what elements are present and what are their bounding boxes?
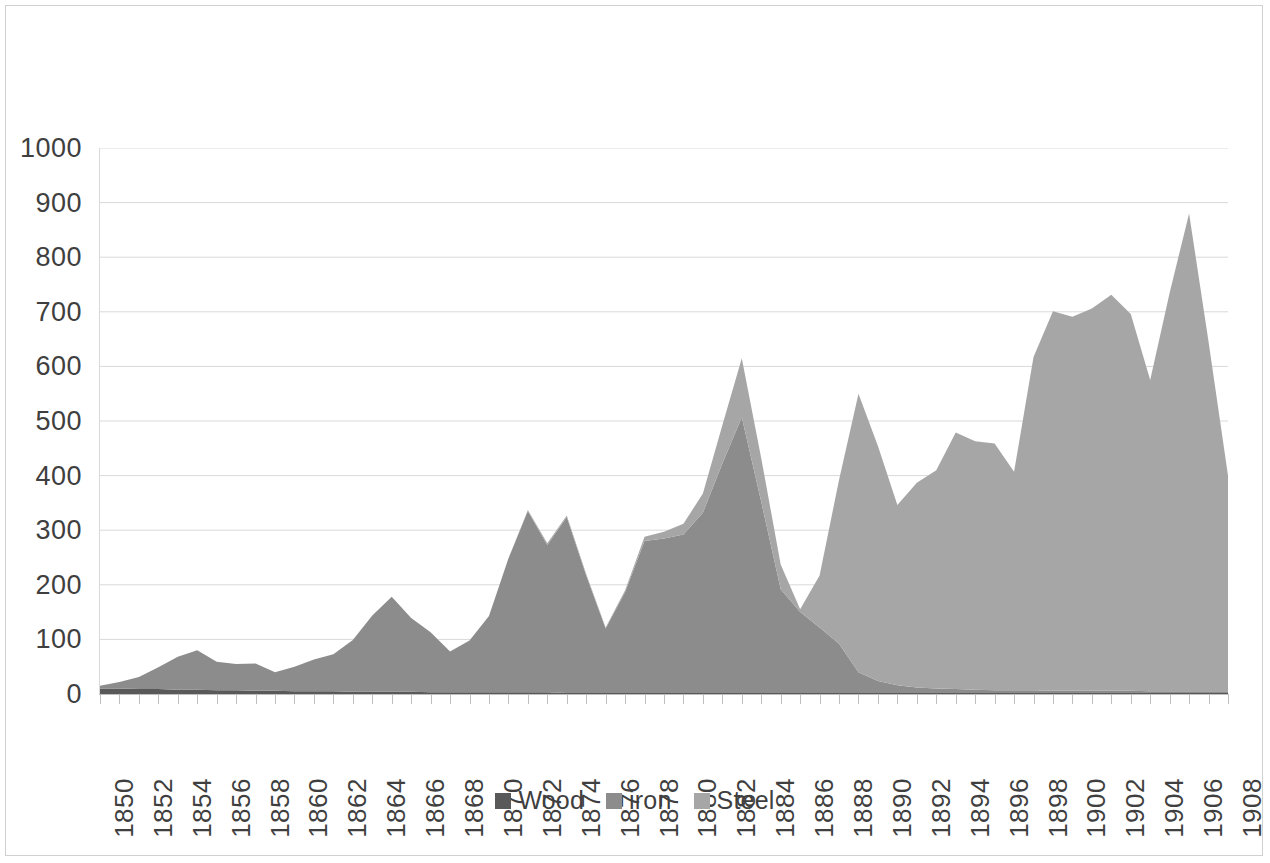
x-axis-tick bbox=[995, 695, 996, 704]
x-axis-tick bbox=[256, 695, 257, 704]
x-axis-tick bbox=[936, 695, 937, 704]
x-axis-labels: 1850185218541856185818601862186418661868… bbox=[100, 704, 1228, 782]
x-axis-tick bbox=[1111, 695, 1112, 704]
x-axis-tick bbox=[586, 695, 587, 704]
y-axis-labels: 01002003004005006007008009001000 bbox=[0, 0, 90, 863]
x-axis-tick bbox=[411, 695, 412, 704]
x-axis-tick bbox=[197, 695, 198, 704]
x-axis-tick bbox=[1092, 695, 1093, 704]
y-axis-tick-label: 100 bbox=[35, 626, 82, 653]
x-axis-tick bbox=[722, 695, 723, 704]
x-axis-tick bbox=[275, 695, 276, 704]
y-axis-tick-label: 400 bbox=[35, 462, 82, 489]
y-axis-tick-label: 0 bbox=[66, 681, 82, 708]
y-axis-tick-label: 300 bbox=[35, 517, 82, 544]
y-axis-tick-label: 1000 bbox=[20, 135, 82, 162]
legend-item[interactable]: iron bbox=[606, 788, 672, 813]
x-axis-tick bbox=[664, 695, 665, 704]
x-axis-tick bbox=[1228, 695, 1229, 704]
y-axis-tick-label: 700 bbox=[35, 298, 82, 325]
legend-item[interactable]: Wood bbox=[495, 788, 584, 813]
x-axis-tick bbox=[606, 695, 607, 704]
x-axis-tick bbox=[956, 695, 957, 704]
x-axis-tick bbox=[625, 695, 626, 704]
x-axis-tick bbox=[158, 695, 159, 704]
x-axis-tick bbox=[1131, 695, 1132, 704]
x-axis-tick bbox=[431, 695, 432, 704]
x-axis-tick bbox=[1150, 695, 1151, 704]
x-axis-tick bbox=[761, 695, 762, 704]
x-axis-tick bbox=[450, 695, 451, 704]
x-axis-tick bbox=[645, 695, 646, 704]
x-axis-tick bbox=[800, 695, 801, 704]
x-axis-tick bbox=[353, 695, 354, 704]
y-axis-tick-label: 200 bbox=[35, 571, 82, 598]
y-axis-tick-label: 800 bbox=[35, 244, 82, 271]
y-axis-tick-label: 600 bbox=[35, 353, 82, 380]
legend-item[interactable]: Steel bbox=[694, 788, 775, 813]
legend-swatch-icon bbox=[606, 793, 622, 809]
plot-area bbox=[100, 148, 1228, 694]
x-axis-tick bbox=[1189, 695, 1190, 704]
chart-legend: WoodironSteel bbox=[0, 788, 1270, 813]
x-axis-tick bbox=[781, 695, 782, 704]
x-axis-tick bbox=[839, 695, 840, 704]
x-axis-tick bbox=[470, 695, 471, 704]
x-axis-tick bbox=[314, 695, 315, 704]
x-axis-tick bbox=[703, 695, 704, 704]
x-axis-tick bbox=[1014, 695, 1015, 704]
legend-swatch-icon bbox=[694, 793, 710, 809]
x-axis-tick bbox=[897, 695, 898, 704]
x-axis-tick bbox=[1209, 695, 1210, 704]
x-axis-tick bbox=[333, 695, 334, 704]
y-axis-tick-label: 500 bbox=[35, 408, 82, 435]
x-axis-tick bbox=[489, 695, 490, 704]
x-axis-tick bbox=[100, 695, 101, 704]
x-axis-tick bbox=[1170, 695, 1171, 704]
x-axis-tick bbox=[820, 695, 821, 704]
x-axis-tick bbox=[1034, 695, 1035, 704]
x-axis-tick bbox=[508, 695, 509, 704]
x-axis-tick bbox=[294, 695, 295, 704]
x-axis-tick bbox=[1053, 695, 1054, 704]
x-axis-tick bbox=[858, 695, 859, 704]
x-axis-tick bbox=[217, 695, 218, 704]
legend-label: Steel bbox=[717, 788, 775, 813]
legend-label: Wood bbox=[518, 788, 584, 813]
x-axis-tick bbox=[372, 695, 373, 704]
x-axis-tick bbox=[392, 695, 393, 704]
x-axis-tick bbox=[917, 695, 918, 704]
x-axis-ticks bbox=[100, 695, 1228, 704]
x-axis-tick bbox=[975, 695, 976, 704]
y-axis-tick-label: 900 bbox=[35, 189, 82, 216]
x-axis-tick bbox=[139, 695, 140, 704]
x-axis-tick bbox=[547, 695, 548, 704]
x-axis-tick bbox=[683, 695, 684, 704]
chart-container: 01002003004005006007008009001000 1850185… bbox=[0, 0, 1270, 863]
x-axis-tick bbox=[119, 695, 120, 704]
x-axis-tick bbox=[236, 695, 237, 704]
x-axis-tick bbox=[567, 695, 568, 704]
x-axis-tick bbox=[178, 695, 179, 704]
series-areas bbox=[100, 214, 1228, 694]
legend-swatch-icon bbox=[495, 793, 511, 809]
x-axis-tick bbox=[742, 695, 743, 704]
x-axis-tick bbox=[1072, 695, 1073, 704]
x-axis-tick bbox=[878, 695, 879, 704]
area-chart-svg bbox=[100, 148, 1228, 694]
x-axis-tick bbox=[528, 695, 529, 704]
legend-label: iron bbox=[629, 788, 672, 813]
